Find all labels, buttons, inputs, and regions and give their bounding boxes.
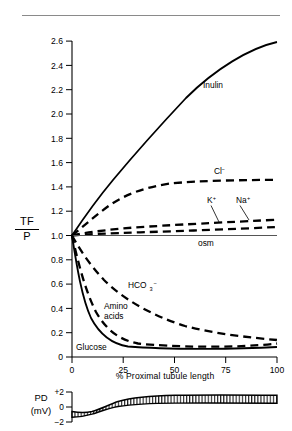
- curve-bicarbonate: [72, 236, 277, 341]
- y-tick-label: 0.4: [51, 304, 63, 314]
- curve-label-amino-line1: Amino: [104, 301, 128, 311]
- y-tick-label: 2.0: [51, 109, 63, 119]
- curve-label-bicarbonate-superscript: −: [154, 280, 157, 286]
- curve-label-inulin: Inulin: [203, 80, 223, 90]
- curve-label-chloride-group: Cl −: [214, 166, 225, 177]
- leader-line-potassium: [211, 206, 219, 223]
- y-tick-label: 2.6: [51, 36, 63, 46]
- pd-y-tick-labels: +2 0 −2: [54, 387, 64, 427]
- main-x-ticks: [72, 357, 277, 363]
- y-tick-label: 1.0: [51, 231, 63, 241]
- curve-label-potassium-superscript: +: [213, 195, 216, 201]
- pd-band-area: [72, 395, 277, 417]
- y-tick-label: 2.2: [51, 85, 63, 95]
- x-tick-label: 75: [221, 365, 231, 375]
- x-tick-label: 100: [270, 365, 285, 375]
- y-tick-label: 2.4: [51, 61, 63, 71]
- curve-label-sodium: Na: [236, 195, 247, 205]
- curve-label-bicarbonate: HCO: [128, 280, 147, 290]
- curve-glucose: [72, 236, 277, 349]
- y-tick-label: 0.8: [51, 255, 63, 265]
- x-tick-label: 50: [170, 365, 180, 375]
- curve-inulin: [72, 42, 277, 236]
- curve-label-potassium-group: K +: [207, 195, 219, 223]
- main-plot: 0 0.2 0.4 0.6 0.8 1.0 1.2 1.4 1.6 1.8 2.…: [51, 36, 284, 374]
- curve-label-glucose: Glucose: [76, 342, 107, 352]
- curve-label-bicarbonate-subscript: 3: [150, 286, 153, 292]
- pd-tick-label: −2: [54, 417, 64, 427]
- x-tick-label: 0: [70, 365, 75, 375]
- main-y-ticks: [66, 41, 72, 357]
- y-tick-label: 0.2: [51, 328, 63, 338]
- y-tick-label: 0: [58, 352, 63, 362]
- x-tick-label: 25: [118, 365, 128, 375]
- main-x-tick-labels: 0 25 50 75 100: [70, 365, 285, 375]
- curve-label-sodium-superscript: +: [247, 195, 250, 201]
- pd-tick-label: 0: [59, 402, 64, 412]
- pd-plot: +2 0 −2: [54, 387, 277, 427]
- y-tick-label: 1.6: [51, 158, 63, 168]
- curve-label-amino-acids-group: Amino acids: [104, 301, 128, 321]
- main-y-tick-labels: 0 0.2 0.4 0.6 0.8 1.0 1.2 1.4 1.6 1.8 2.…: [51, 36, 63, 362]
- curve-amino-acids: [72, 236, 277, 347]
- chart-svg: 0 0.2 0.4 0.6 0.8 1.0 1.2 1.4 1.6 1.8 2.…: [0, 0, 292, 431]
- curve-label-chloride-superscript: −: [222, 166, 225, 172]
- curve-chloride: [72, 180, 277, 236]
- pd-tick-label: +2: [54, 387, 64, 397]
- y-tick-label: 0.6: [51, 279, 63, 289]
- curve-label-sodium-group: Na +: [236, 195, 250, 221]
- leader-line-sodium: [240, 206, 249, 221]
- y-tick-label: 1.8: [51, 134, 63, 144]
- curve-label-osm: osm: [198, 238, 214, 248]
- curve-label-bicarbonate-group: HCO 3 −: [128, 280, 157, 292]
- figure-panel: TF P % Proximal tubule length PD (mV): [0, 0, 292, 431]
- y-tick-label: 1.2: [51, 206, 63, 216]
- y-tick-label: 1.4: [51, 182, 63, 192]
- curve-label-amino-line2: acids: [104, 311, 124, 321]
